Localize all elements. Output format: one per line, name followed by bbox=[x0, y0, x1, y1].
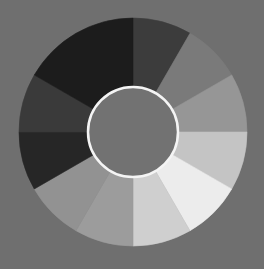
center-circle bbox=[88, 87, 178, 177]
grayscale-wheel-canvas bbox=[0, 0, 264, 269]
grayscale-wheel bbox=[0, 0, 264, 269]
